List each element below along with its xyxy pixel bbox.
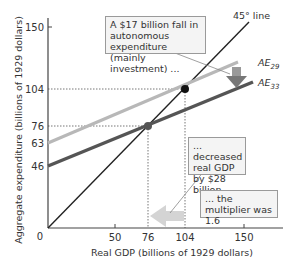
label-ae33: AE33 bbox=[257, 77, 279, 91]
y-axis-title: Aggregate expenditure (billions of 1929 … bbox=[13, 16, 24, 244]
tick-label-y104: 104 bbox=[25, 84, 44, 95]
tick-label-x76: 76 bbox=[142, 232, 155, 243]
shift-arrow-down-icon bbox=[232, 67, 241, 77]
tick-label-x50: 50 bbox=[109, 232, 122, 243]
label-ae29: AE29 bbox=[257, 57, 280, 71]
shift-arrow-left-icon bbox=[165, 211, 184, 221]
tick-label-y46: 46 bbox=[31, 161, 44, 172]
tick-label-x150: 150 bbox=[234, 232, 253, 243]
tick-label-y63: 63 bbox=[31, 138, 44, 149]
connector-fall bbox=[175, 53, 230, 74]
annotation-autonomous-fall: A $17 billion fall in autonomous expendi… bbox=[105, 16, 206, 54]
tick-label-y76: 76 bbox=[31, 121, 44, 132]
equilibrium-point-1933 bbox=[144, 122, 152, 130]
x-axis-title: Real GDP (billions of 1929 dollars) bbox=[91, 247, 253, 258]
annotation-gdp-decrease: ... decreased real GDP by $28 billion ..… bbox=[188, 137, 246, 175]
shift-arrow-left-head bbox=[150, 205, 166, 227]
tick-label-y150: 150 bbox=[25, 22, 44, 33]
tick-label-x0: 0 bbox=[37, 231, 43, 242]
annotation-multiplier: ... the multiplier was 1.6 bbox=[200, 190, 278, 218]
equilibrium-point-1929 bbox=[181, 85, 189, 93]
tick-label-x104: 104 bbox=[175, 232, 194, 243]
label-45-degree-line: 45° line bbox=[233, 10, 270, 21]
